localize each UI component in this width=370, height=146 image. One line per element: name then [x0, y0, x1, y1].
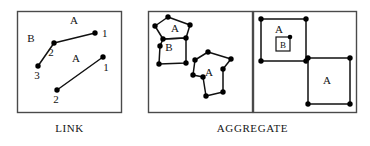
link-edge-label-a-lower: A: [72, 52, 80, 64]
aggregate-vertex: [183, 60, 188, 65]
aggregate-vertex: [183, 35, 188, 40]
aggregate-label-a-second: A: [205, 66, 213, 78]
aggregate-label-a-second-rect: A: [323, 74, 331, 86]
link-node-label-2-lower: 2: [53, 93, 59, 105]
aggregate-vertex: [288, 35, 293, 40]
aggregate-label-b-inner: B: [280, 40, 286, 50]
link-panel: A B 1 2 3 A 1 2: [18, 12, 122, 113]
caption-aggregate: AGGREGATE: [148, 122, 357, 134]
aggregate-vertex: [220, 89, 225, 94]
aggregate-vertex: [157, 43, 162, 48]
link-node-3: [35, 63, 40, 68]
aggregate-label-b: B: [165, 41, 172, 53]
aggregate-vertex: [347, 101, 352, 106]
link-node-label-1-upper: 1: [102, 27, 108, 39]
aggregate-vertex: [347, 55, 352, 60]
aggregate-vertex: [258, 16, 263, 21]
link-node-label-2-upper: 2: [48, 46, 54, 58]
aggregate-right-panel: A B A: [254, 12, 357, 113]
aggregate-vertex: [205, 49, 210, 54]
link-node-2: [51, 40, 56, 45]
aggregate-vertex: [220, 66, 225, 71]
aggregate-vertex: [303, 16, 308, 21]
aggregate-left-panel: A B A: [149, 12, 253, 113]
link-node-2-lower: [54, 87, 59, 92]
aggregate-vertex: [228, 56, 233, 61]
aggregate-vertex: [156, 61, 161, 66]
aggregate-vertex: [305, 101, 310, 106]
link-node-1-lower: [100, 54, 105, 59]
aggregate-vertex: [258, 58, 263, 63]
link-node-label-1-lower: 1: [103, 61, 109, 73]
caption-link: LINK: [17, 122, 122, 134]
aggregate-vertex: [190, 72, 195, 77]
link-node-1: [92, 30, 97, 35]
aggregate-vertex: [305, 55, 310, 60]
aggregate-vertex: [203, 93, 208, 98]
link-edge-label-b: B: [27, 32, 34, 44]
aggregate-vertex: [152, 23, 157, 28]
aggregate-vertex: [187, 22, 192, 27]
aggregate-label-a-outer: A: [275, 23, 283, 35]
aggregate-left-panel-border: [149, 12, 253, 113]
aggregate-vertex: [192, 57, 197, 62]
aggregate-label-a-upper: A: [171, 22, 179, 34]
aggregate-vertex: [165, 14, 170, 19]
link-node-label-3: 3: [34, 69, 40, 81]
link-edge-label-a-upper: A: [70, 14, 78, 26]
